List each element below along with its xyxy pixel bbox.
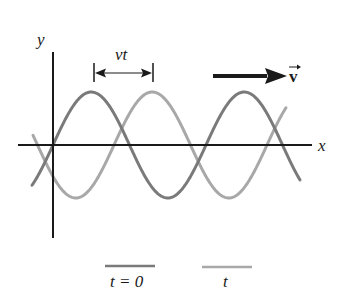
vt-displacement-marker: vt bbox=[94, 45, 153, 82]
velocity-arrow: v bbox=[213, 65, 301, 87]
vt-label: vt bbox=[115, 45, 129, 64]
legend: t = 0 t bbox=[105, 266, 252, 291]
arrow-right-icon bbox=[265, 68, 287, 84]
velocity-label: v bbox=[289, 67, 298, 86]
legend-label-t0: t = 0 bbox=[110, 272, 144, 291]
x-axis-label: x bbox=[317, 136, 326, 155]
wave-diagram: x y vt v t = 0 t bbox=[0, 0, 340, 305]
y-axis-label: y bbox=[35, 30, 45, 49]
legend-label-t: t bbox=[223, 272, 229, 291]
